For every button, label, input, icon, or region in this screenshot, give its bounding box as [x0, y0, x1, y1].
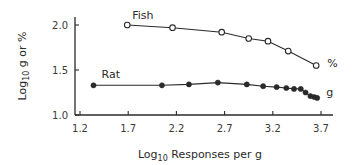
labels-layer: 1.01.52.01.21.72.22.73.23.7Log10 Respons…	[16, 9, 338, 163]
data-point	[246, 36, 252, 42]
data-point	[265, 38, 271, 44]
series-line	[93, 83, 317, 98]
x-tick-label: 2.2	[168, 123, 184, 134]
series-end-label-g: g	[326, 86, 333, 99]
data-point	[274, 85, 279, 90]
data-point	[170, 25, 176, 31]
y-axis-title: Log10 g or %	[16, 31, 31, 100]
chart: 1.01.52.01.21.72.22.73.23.7Log10 Respons…	[0, 0, 362, 165]
y-tick-label: 1.0	[52, 110, 68, 121]
data-point	[244, 82, 249, 87]
x-tick-label: 3.2	[265, 123, 281, 134]
series-label-fish: Fish	[132, 9, 153, 22]
data-point	[261, 84, 266, 89]
axes	[75, 17, 333, 115]
data-point	[159, 83, 164, 88]
data-point	[285, 48, 291, 54]
x-axis-title: Log10 Responses per g	[138, 148, 262, 163]
series-end-label-percent: %	[327, 57, 337, 70]
data-point	[186, 82, 191, 87]
x-tick-label: 2.7	[217, 123, 233, 134]
series-layer	[91, 22, 320, 100]
series-fish	[124, 22, 319, 68]
y-tick-label: 1.5	[52, 65, 68, 76]
data-point	[303, 90, 308, 95]
data-point	[284, 85, 289, 90]
data-point	[219, 29, 225, 35]
y-tick-label: 2.0	[52, 20, 68, 31]
x-tick-label: 3.7	[313, 123, 329, 134]
series-label-rat: Rat	[101, 68, 120, 81]
x-tick-label: 1.7	[120, 123, 136, 134]
x-tick-label: 1.2	[72, 123, 88, 134]
data-point	[124, 22, 130, 28]
data-point	[315, 95, 320, 100]
data-point	[313, 63, 319, 69]
data-point	[91, 83, 96, 88]
data-point	[298, 86, 303, 91]
data-point	[291, 86, 296, 91]
data-point	[215, 80, 220, 85]
series-rat	[91, 80, 320, 101]
